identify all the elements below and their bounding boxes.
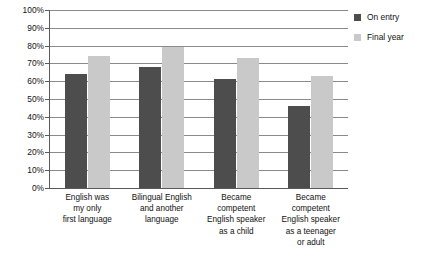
y-tick-label: 90% xyxy=(0,23,44,32)
category-label: BecamecompetentEnglish speakeras a teena… xyxy=(268,192,355,248)
y-tick-mark xyxy=(45,81,50,82)
bar-chart: On entry Final year 0%10%20%30%40%50%60%… xyxy=(0,0,438,258)
legend-label-final-year: Final year xyxy=(367,33,404,42)
category-label-line: English speaker xyxy=(268,214,355,225)
legend-item-final-year: Final year xyxy=(354,30,438,45)
x-axis-category-labels: English wasmy onlyfirst languageBilingua… xyxy=(50,192,348,258)
category-label-line: Became xyxy=(268,192,355,203)
y-tick-mark xyxy=(45,188,50,189)
y-tick-mark xyxy=(45,99,50,100)
y-axis-tick-labels: 0%10%20%30%40%50%60%70%80%90%100% xyxy=(0,10,44,188)
bar-final-year xyxy=(88,56,110,188)
bars-layer xyxy=(50,10,348,188)
legend-swatch-on-entry-icon xyxy=(354,14,361,21)
category-label-line: competent xyxy=(268,203,355,214)
y-tick-label: 50% xyxy=(0,95,44,104)
y-tick-label: 100% xyxy=(0,6,44,15)
bar-group xyxy=(288,10,333,188)
bar-group xyxy=(214,10,259,188)
x-axis-baseline xyxy=(50,188,348,189)
legend-label-on-entry: On entry xyxy=(367,13,399,22)
y-tick-mark xyxy=(45,135,50,136)
y-tick-label: 80% xyxy=(0,41,44,50)
category-label-line: as a teenager xyxy=(268,226,355,237)
y-tick-mark xyxy=(45,117,50,118)
y-tick-label: 10% xyxy=(0,166,44,175)
y-tick-label: 70% xyxy=(0,59,44,68)
bar-group xyxy=(65,10,110,188)
y-tick-label: 20% xyxy=(0,148,44,157)
y-tick-mark xyxy=(45,63,50,64)
y-tick-mark xyxy=(45,46,50,47)
chart-legend: On entry Final year xyxy=(354,10,438,50)
legend-item-on-entry: On entry xyxy=(354,10,438,25)
category-label-line: or adult xyxy=(268,237,355,248)
y-tick-label: 0% xyxy=(0,184,44,193)
y-tick-mark xyxy=(45,10,50,11)
legend-swatch-final-year-icon xyxy=(354,34,361,41)
y-tick-mark xyxy=(45,28,50,29)
y-tick-label: 30% xyxy=(0,130,44,139)
plot-area xyxy=(50,10,348,188)
bar-group xyxy=(139,10,184,188)
bar-on-entry xyxy=(139,67,161,188)
bar-final-year xyxy=(237,58,259,188)
y-tick-label: 60% xyxy=(0,77,44,86)
bar-on-entry xyxy=(288,106,310,188)
y-tick-mark xyxy=(45,152,50,153)
y-tick-label: 40% xyxy=(0,112,44,121)
bar-on-entry xyxy=(65,74,87,188)
plot-wrapper: 0%10%20%30%40%50%60%70%80%90%100% Englis… xyxy=(0,10,350,258)
bar-on-entry xyxy=(214,79,236,188)
bar-final-year xyxy=(162,47,184,188)
y-tick-mark xyxy=(45,170,50,171)
bar-final-year xyxy=(311,76,333,188)
